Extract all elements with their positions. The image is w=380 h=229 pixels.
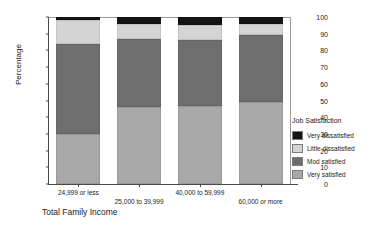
legend-item: Mod satisfied [292, 155, 378, 168]
legend-items: Very dissatisfiedLittle dissatisfiedMod … [292, 129, 378, 181]
bar-segment [239, 102, 283, 184]
bar-segment [117, 39, 161, 107]
y-tick-label: 70 [320, 64, 332, 71]
legend-swatch-icon [292, 131, 303, 140]
legend-item-label: Very satisfied [307, 171, 346, 179]
bar-stack [117, 17, 161, 184]
x-tick-label: 24,999 or less [58, 189, 99, 197]
legend-swatch-icon [292, 157, 303, 166]
bar-segment [239, 24, 283, 36]
legend-title: Job Satisfaction [292, 116, 378, 125]
bar-segment [117, 107, 161, 184]
x-tick-mark [78, 184, 79, 187]
bar-group [48, 17, 291, 184]
y-tick-label: 60 [320, 80, 332, 87]
bar-segment [56, 134, 100, 184]
bar-segment [117, 17, 161, 24]
x-tick-label: 25,000 to 39,999 [115, 198, 164, 206]
x-tick-label: 60,000 or more [239, 198, 283, 206]
y-tick-label: 0 [324, 181, 332, 188]
plot-area [48, 17, 291, 184]
y-tick-label: 80 [320, 47, 332, 54]
x-tick-mark [261, 184, 262, 187]
legend-item-label: Mod satisfied [307, 158, 345, 166]
bar-segment [239, 35, 283, 102]
stacked-bar-chart: Percentage 0102030405060708090100 24,999… [0, 0, 380, 229]
legend-swatch-icon [292, 144, 303, 153]
bar-stack [178, 17, 222, 184]
bar-segment [178, 106, 222, 184]
y-tick-label: 50 [320, 97, 332, 104]
y-axis-title: Percentage [14, 25, 23, 105]
bar-segment [56, 44, 100, 134]
y-tick-label: 100 [316, 14, 332, 21]
bar-stack [239, 17, 283, 184]
legend-item-label: Very dissatisfied [307, 132, 354, 140]
legend-item: Very dissatisfied [292, 129, 378, 142]
legend-item-label: Little dissatisfied [307, 145, 355, 153]
bar-segment [239, 17, 283, 24]
y-axis: Percentage [0, 0, 48, 229]
bar-segment [56, 20, 100, 43]
legend-swatch-icon [292, 170, 303, 179]
x-tick-mark [200, 184, 201, 187]
legend-item: Very satisfied [292, 168, 378, 181]
legend-item: Little dissatisfied [292, 142, 378, 155]
x-tick-mark [139, 184, 140, 187]
bar-segment [178, 25, 222, 40]
x-axis-title: Total Family Income [42, 207, 118, 217]
bar-segment [178, 40, 222, 105]
legend: Job Satisfaction Very dissatisfiedLittle… [292, 116, 378, 181]
bar-segment [117, 24, 161, 39]
x-tick-label: 40,000 to 59,999 [175, 189, 224, 197]
y-tick-label: 90 [320, 30, 332, 37]
bar-segment [178, 17, 222, 25]
bar-stack [56, 17, 100, 184]
